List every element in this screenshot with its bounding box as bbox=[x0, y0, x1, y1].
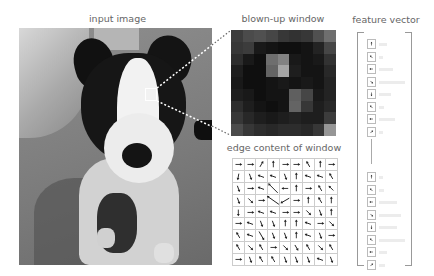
pixel-cell bbox=[313, 124, 325, 136]
edge-cell bbox=[326, 207, 338, 219]
edge-cell bbox=[245, 207, 257, 219]
arrow-icon bbox=[326, 159, 337, 170]
arrow-icon bbox=[245, 171, 256, 182]
edge-cell bbox=[256, 242, 268, 254]
edge-cell bbox=[326, 254, 338, 266]
edge-cell bbox=[280, 230, 292, 242]
edge-cell bbox=[233, 218, 245, 230]
pixel-cell bbox=[301, 65, 313, 77]
dog-left-paw bbox=[97, 228, 115, 248]
arrow-icon bbox=[315, 195, 326, 206]
pixel-cell bbox=[231, 42, 243, 54]
edge-cell bbox=[256, 207, 268, 219]
edge-cell bbox=[315, 207, 327, 219]
pixel-cell bbox=[266, 30, 278, 42]
feature-orientation-icon bbox=[367, 127, 376, 137]
feature-magnitude-bar bbox=[379, 251, 387, 254]
arrow-icon bbox=[291, 207, 302, 218]
arrow-icon bbox=[368, 186, 375, 194]
feature-orientation-icon bbox=[367, 210, 376, 220]
pixel-cell bbox=[289, 77, 301, 89]
pixel-cell bbox=[301, 42, 313, 54]
arrow-icon bbox=[303, 242, 314, 253]
arrow-icon bbox=[326, 254, 337, 265]
feature-orientation-icon bbox=[367, 235, 376, 245]
edge-cell bbox=[303, 254, 315, 266]
pixel-cell bbox=[243, 54, 255, 66]
pixel-cell bbox=[231, 65, 243, 77]
arrow-icon bbox=[280, 230, 291, 241]
edge-content-label: edge content of window bbox=[224, 142, 344, 153]
feature-magnitude-bar bbox=[379, 239, 405, 242]
feature-magnitude-bar bbox=[379, 131, 383, 134]
edge-cell bbox=[233, 183, 245, 195]
bracket-right bbox=[405, 32, 412, 266]
pixel-cell bbox=[324, 101, 336, 113]
edge-cell bbox=[291, 230, 303, 242]
pixel-cell bbox=[313, 42, 325, 54]
arrow-icon bbox=[256, 230, 267, 241]
arrow-icon bbox=[280, 254, 291, 265]
pixel-cell bbox=[301, 54, 313, 66]
arrow-icon bbox=[280, 183, 291, 194]
arrow-icon bbox=[326, 171, 337, 182]
edge-cell bbox=[291, 254, 303, 266]
arrow-icon bbox=[233, 254, 244, 265]
pixel-cell bbox=[301, 112, 313, 124]
arrow-icon bbox=[315, 207, 326, 218]
arrow-icon bbox=[315, 183, 326, 194]
pixel-cell bbox=[289, 54, 301, 66]
pixel-cell bbox=[313, 112, 325, 124]
feature-magnitude-bar bbox=[379, 81, 405, 84]
pixel-cell bbox=[289, 42, 301, 54]
arrow-icon bbox=[303, 207, 314, 218]
arrow-icon bbox=[233, 159, 244, 170]
edge-cell bbox=[315, 159, 327, 171]
pixel-cell bbox=[313, 89, 325, 101]
edge-cell bbox=[256, 195, 268, 207]
edge-cell bbox=[280, 218, 292, 230]
arrow-icon bbox=[280, 195, 291, 206]
pixel-cell bbox=[243, 89, 255, 101]
pixel-cell bbox=[231, 77, 243, 89]
edge-cell bbox=[245, 230, 257, 242]
feature-orientation-icon bbox=[367, 77, 376, 87]
arrow-icon bbox=[291, 183, 302, 194]
arrow-icon bbox=[245, 254, 256, 265]
arrow-icon bbox=[315, 218, 326, 229]
arrow-icon bbox=[268, 171, 279, 182]
pixel-cell bbox=[313, 54, 325, 66]
pixel-cell bbox=[278, 54, 290, 66]
arrow-icon bbox=[233, 207, 244, 218]
pixel-cell bbox=[324, 65, 336, 77]
arrow-icon bbox=[233, 171, 244, 182]
pixel-cell bbox=[243, 101, 255, 113]
arrow-icon bbox=[268, 254, 279, 265]
pixel-cell bbox=[266, 124, 278, 136]
pixel-cell bbox=[243, 112, 255, 124]
arrow-icon bbox=[245, 159, 256, 170]
arrow-icon bbox=[256, 254, 267, 265]
edge-content-grid bbox=[232, 158, 338, 266]
pixel-cell bbox=[289, 112, 301, 124]
feature-magnitude-bar bbox=[379, 93, 391, 96]
arrow-icon bbox=[291, 195, 302, 206]
arrow-icon bbox=[303, 183, 314, 194]
edge-cell bbox=[326, 218, 338, 230]
pixel-cell bbox=[301, 77, 313, 89]
arrow-icon bbox=[368, 53, 375, 61]
feature-vector bbox=[357, 32, 412, 265]
pixel-cell bbox=[289, 65, 301, 77]
arrow-icon bbox=[233, 218, 244, 229]
arrow-icon bbox=[303, 195, 314, 206]
arrow-icon bbox=[368, 65, 375, 73]
edge-cell bbox=[303, 207, 315, 219]
arrow-icon bbox=[303, 254, 314, 265]
edge-cell bbox=[245, 183, 257, 195]
edge-cell bbox=[315, 218, 327, 230]
edge-cell bbox=[326, 159, 338, 171]
arrow-icon bbox=[280, 159, 291, 170]
edge-cell bbox=[303, 195, 315, 207]
arrow-icon bbox=[280, 218, 291, 229]
edge-cell bbox=[326, 195, 338, 207]
